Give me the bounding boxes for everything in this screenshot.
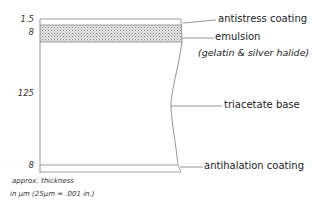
emulsion-label: emulsion [215, 31, 260, 42]
base-break-curve [171, 42, 182, 165]
antistress-label: antistress coating [218, 13, 307, 24]
antistress-thickness: 1.5 [4, 14, 34, 24]
emulsion-layer [40, 25, 182, 42]
base-label: triacetate base [224, 99, 300, 110]
antihalation-label: antihalation coating [204, 160, 304, 171]
base-thickness: 125 [4, 88, 34, 98]
emulsion-thickness: 8 [4, 27, 34, 37]
antihalation-thickness: 8 [4, 160, 34, 170]
thickness-note-line2: in µm (25µm = .001 in.) [10, 190, 94, 198]
emulsion-sub-label: (gelatin & silver halide) [198, 47, 309, 58]
thickness-note-line1: approx. thickness [12, 177, 74, 185]
